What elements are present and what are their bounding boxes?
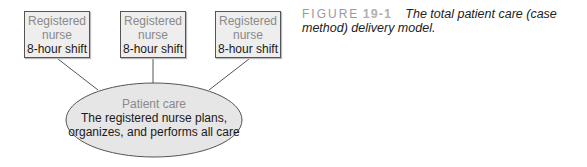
nurse-box-3: Registered nurse 8-hour shift (215, 11, 281, 58)
nurse-box-label: Registered (216, 14, 280, 28)
figure-label: FIGURE (302, 7, 359, 21)
nurse-box-shift: 8-hour shift (25, 42, 89, 56)
figure-caption: FIGURE 19-1 The total patient care (case… (302, 7, 582, 35)
nurse-box-2: Registered nurse 8-hour shift (120, 11, 186, 58)
nurse-box-shift: 8-hour shift (121, 42, 185, 56)
patient-care-line: The registered nurse plans, (66, 111, 242, 125)
nurse-box-1: Registered nurse 8-hour shift (24, 11, 90, 58)
nurse-box-label: Registered (25, 14, 89, 28)
nurse-box-label: Registered (121, 14, 185, 28)
patient-care-title: Patient care (66, 97, 242, 111)
patient-care-line: organizes, and performs all care (66, 125, 242, 139)
nurse-box-label: nurse (25, 28, 89, 42)
nurse-box-label: nurse (121, 28, 185, 42)
nurse-box-label: nurse (216, 28, 280, 42)
figure-number: 19-1 (363, 7, 392, 21)
patient-care-text: Patient care The registered nurse plans,… (66, 97, 242, 139)
nurse-box-shift: 8-hour shift (216, 42, 280, 56)
